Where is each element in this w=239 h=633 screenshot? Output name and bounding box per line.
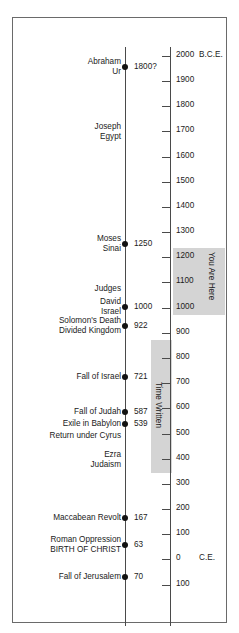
event-label-line2: Israel (100, 307, 121, 317)
tick-mark (162, 232, 170, 233)
tick-mark (162, 459, 170, 460)
event-label-line1: Return under Cyrus (50, 431, 121, 440)
event-label-line1: Maccabean Revolt (53, 513, 121, 522)
tick-label: 1300 (176, 226, 194, 236)
event-label-group: Maccabean Revolt (53, 513, 121, 523)
tick-mark (162, 383, 170, 384)
event-label-group: AbrahamUr (88, 57, 121, 76)
event-label-group: Fall of Israel (76, 372, 121, 382)
event-date-label: 167 (134, 513, 148, 523)
event-label-line1: Moses (97, 234, 121, 243)
tick-mark (162, 81, 170, 82)
event-label-group: Roman OppressionBIRTH OF CHRIST (50, 535, 121, 554)
tick-mark (162, 131, 170, 132)
tick-mark (162, 333, 170, 334)
band-label-you-are-here: You Are Here (207, 252, 216, 300)
tick-era-label: C.E. (199, 553, 215, 563)
tick-label: 1800 (176, 100, 194, 110)
tick-label: 100 (176, 528, 190, 538)
event-date-label: 70 (134, 572, 143, 582)
event-date-label: 1250 (134, 239, 152, 249)
event-marker-dot (122, 374, 128, 380)
tick-mark (162, 308, 170, 309)
event-marker-dot (122, 304, 128, 310)
event-label-group: Fall of Judah (74, 407, 121, 417)
tick-label: 1200 (176, 251, 194, 261)
tick-label: 600 (176, 402, 190, 412)
tick-label: 900 (176, 327, 190, 337)
tick-label: 2000 (176, 50, 194, 60)
event-label-line1: Fall of Israel (76, 372, 121, 381)
event-date-label: 63 (134, 540, 143, 550)
tick-label: 300 (176, 478, 190, 488)
event-label-line2: Egypt (95, 132, 121, 142)
tick-label: 700 (176, 377, 190, 387)
tick-mark (162, 282, 170, 283)
tick-label: 1000 (176, 302, 194, 312)
tick-label: 1900 (176, 75, 194, 85)
event-label-line1: Exile in Babylon (63, 419, 121, 428)
event-label-group: JosephEgypt (95, 122, 121, 141)
event-marker-dot (122, 421, 128, 427)
event-marker-dot (122, 323, 128, 329)
event-label-group: Judges (95, 284, 121, 294)
band-label-time-written: Time Written (154, 382, 163, 428)
tick-label: 1700 (176, 125, 194, 135)
tick-mark (162, 157, 170, 158)
event-date-label: 721 (134, 372, 148, 382)
tick-label: 200 (176, 503, 190, 513)
event-label-group: Exile in Babylon (63, 419, 121, 429)
event-label-line2: BIRTH OF CHRIST (50, 545, 121, 555)
tick-mark (162, 484, 170, 485)
event-label-group: DavidIsrael (100, 297, 121, 316)
event-date-label: 1800? (134, 62, 157, 72)
event-axis-line (125, 47, 126, 626)
tick-mark (162, 56, 170, 57)
event-label-group: MosesSinai (97, 234, 121, 253)
event-label-group: Solomon's DeathDivided Kingdom (59, 316, 121, 335)
event-label-line2: Sinai (97, 244, 121, 254)
event-label-group: Fall of Jerusalem (59, 572, 121, 582)
event-label-group: Return under Cyrus (50, 431, 121, 441)
event-marker-dot (122, 515, 128, 521)
tick-label: 100 (176, 579, 190, 589)
event-marker-dot (122, 64, 128, 70)
tick-mark (162, 257, 170, 258)
event-label-line1: Judges (95, 284, 121, 293)
tick-mark (162, 534, 170, 535)
tick-mark (162, 509, 170, 510)
event-date-label: 587 (134, 407, 148, 417)
scale-axis-line (170, 47, 171, 626)
tick-mark (162, 207, 170, 208)
tick-label: 500 (176, 428, 190, 438)
event-label-line1: Abraham (88, 57, 121, 66)
tick-label: 0 (176, 553, 181, 563)
tick-mark (162, 106, 170, 107)
event-date-label: 922 (134, 321, 148, 331)
event-marker-dot (122, 574, 128, 580)
event-label-line2: Divided Kingdom (59, 326, 121, 336)
tick-mark (162, 408, 170, 409)
tick-label: 1600 (176, 151, 194, 161)
event-label-line1: Roman Oppression (50, 535, 121, 544)
timeline-figure: You Are Here Time Written 2000B.C.E.1900… (0, 0, 239, 633)
event-label-line1: Joseph (95, 122, 121, 131)
tick-mark (162, 358, 170, 359)
tick-mark (162, 585, 170, 586)
event-label-line1: Fall of Judah (74, 407, 121, 416)
tick-label: 1500 (176, 176, 194, 186)
tick-label: 1100 (176, 276, 194, 286)
event-date-label: 539 (134, 419, 148, 429)
event-label-line2: Judaism (91, 460, 122, 470)
tick-mark (162, 559, 170, 560)
event-label-line1: Fall of Jerusalem (59, 572, 121, 581)
tick-mark (162, 182, 170, 183)
event-label-line1: Solomon's Death (59, 316, 121, 325)
event-label-line1: Ezra (104, 450, 121, 459)
tick-label: 400 (176, 453, 190, 463)
event-marker-dot (122, 241, 128, 247)
tick-era-label: B.C.E. (199, 50, 223, 60)
tick-label: 800 (176, 352, 190, 362)
event-date-label: 1000 (134, 302, 152, 312)
event-label-group: EzraJudaism (91, 450, 122, 469)
